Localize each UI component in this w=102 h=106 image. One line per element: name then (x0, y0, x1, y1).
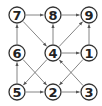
node-label: 6 (12, 46, 21, 61)
node-7: 7 (9, 7, 25, 23)
node-label: 2 (48, 85, 57, 100)
node-6: 6 (9, 45, 25, 61)
node-label: 8 (48, 8, 57, 23)
node-label: 4 (48, 46, 57, 61)
directed-graph: 789641523 (0, 0, 102, 106)
nodes-layer: 789641523 (9, 7, 97, 100)
node-1: 1 (81, 45, 97, 61)
node-5: 5 (9, 84, 25, 100)
edge-7-to-4 (23, 22, 46, 47)
node-2: 2 (45, 84, 61, 100)
node-9: 9 (81, 7, 97, 23)
node-label: 3 (84, 85, 93, 100)
node-label: 7 (12, 8, 21, 23)
node-label: 1 (84, 46, 93, 61)
edge-4-to-9 (59, 22, 82, 47)
node-label: 5 (12, 85, 21, 100)
node-8: 8 (45, 7, 61, 23)
node-label: 9 (84, 8, 93, 23)
node-4: 4 (45, 45, 61, 61)
node-3: 3 (81, 84, 97, 100)
